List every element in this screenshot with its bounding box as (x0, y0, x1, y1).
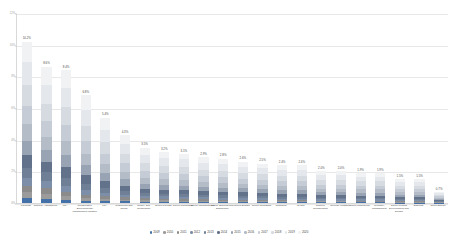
bar-segment[interactable] (41, 104, 51, 121)
bar-segment[interactable] (22, 198, 32, 203)
bar-column[interactable]: 2.6% (238, 162, 248, 203)
legend-item[interactable]: 2012 (190, 231, 200, 234)
bar-column[interactable]: 10.2% (22, 42, 32, 204)
legend-item[interactable]: 2018 (271, 231, 281, 234)
bar-column[interactable]: 3.2% (159, 152, 169, 203)
bar-segment[interactable] (218, 164, 228, 171)
legend-item[interactable]: 2020 (298, 231, 308, 234)
bar-segment[interactable] (22, 178, 32, 186)
bar-segment[interactable] (100, 130, 110, 143)
bar-segment[interactable] (179, 159, 189, 166)
bar-segment[interactable] (179, 202, 189, 203)
bar-segment[interactable] (100, 164, 110, 173)
bar-column[interactable]: 2.4% (277, 165, 287, 203)
bar-segment[interactable] (41, 150, 51, 162)
bar-segment[interactable] (61, 125, 71, 141)
bar-segment[interactable] (159, 158, 169, 166)
legend-item[interactable]: 2013 (204, 231, 214, 234)
legend-item[interactable]: 2010 (163, 231, 173, 234)
bar-segment[interactable] (81, 126, 91, 141)
bar-column[interactable]: 8.6% (41, 67, 51, 203)
bar-segment[interactable] (100, 201, 110, 203)
bar-segment[interactable] (81, 165, 91, 175)
bar-column[interactable]: 2.5% (257, 163, 267, 203)
bar-segment[interactable] (41, 181, 51, 188)
bar-segment[interactable] (140, 148, 150, 155)
bar-segment[interactable] (159, 202, 169, 203)
bar-column[interactable]: 3.1% (179, 154, 189, 203)
bar-segment[interactable] (198, 163, 208, 170)
bar-column[interactable]: 5.4% (100, 118, 110, 204)
bar-segment[interactable] (41, 137, 51, 151)
bar-segment[interactable] (22, 42, 32, 63)
bar-column[interactable]: 2.9% (198, 157, 208, 203)
bar-segment[interactable] (316, 202, 326, 203)
bar-column[interactable]: 2.8% (218, 159, 228, 203)
bar-segment[interactable] (140, 163, 150, 171)
bar-column[interactable]: 6.8% (81, 95, 91, 203)
bar-segment[interactable] (22, 141, 32, 155)
bar-segment[interactable] (22, 106, 32, 125)
bar-segment[interactable] (257, 202, 267, 203)
bar-column[interactable]: 1.9% (356, 173, 366, 203)
bar-segment[interactable] (61, 155, 71, 167)
bar-segment[interactable] (81, 141, 91, 154)
bar-segment[interactable] (61, 178, 71, 186)
bar-column[interactable]: 2.0% (336, 171, 346, 203)
bar-segment[interactable] (120, 154, 130, 163)
bar-column[interactable]: 4.3% (120, 135, 130, 203)
legend-item[interactable]: 2019 (285, 231, 295, 234)
bar-segment[interactable] (100, 118, 110, 130)
bar-segment[interactable] (41, 199, 51, 203)
bar-segment[interactable] (297, 202, 307, 203)
bar-segment[interactable] (22, 124, 32, 141)
bar-segment[interactable] (277, 202, 287, 203)
bar-column[interactable]: 1.9% (375, 173, 385, 203)
bar-segment[interactable] (81, 154, 91, 166)
bar-segment[interactable] (198, 202, 208, 203)
bar-segment[interactable] (61, 200, 71, 203)
bar-segment[interactable] (140, 202, 150, 203)
bar-segment[interactable] (41, 121, 51, 137)
bar-segment[interactable] (81, 201, 91, 203)
bar-segment[interactable] (81, 110, 91, 126)
bar-segment[interactable] (61, 141, 71, 155)
bar-segment[interactable] (61, 70, 71, 88)
legend-item[interactable]: 2017 (258, 231, 268, 234)
bar-column[interactable]: 0.7% (434, 192, 444, 203)
legend-item[interactable]: 2009 (150, 231, 160, 234)
bar-segment[interactable] (61, 107, 71, 125)
bar-segment[interactable] (179, 167, 189, 174)
bar-column[interactable]: 2.4% (297, 165, 307, 203)
bar-segment[interactable] (120, 163, 130, 172)
bar-column[interactable]: 1.5% (414, 179, 424, 203)
bar-segment[interactable] (22, 155, 32, 167)
bar-segment[interactable] (22, 85, 32, 106)
bar-segment[interactable] (140, 171, 150, 178)
bar-segment[interactable] (22, 62, 32, 84)
bar-segment[interactable] (100, 173, 110, 181)
bar-segment[interactable] (22, 168, 32, 178)
bar-segment[interactable] (120, 172, 130, 179)
bar-segment[interactable] (81, 95, 91, 110)
bar-segment[interactable] (375, 202, 385, 203)
bar-segment[interactable] (41, 172, 51, 181)
bar-segment[interactable] (41, 85, 51, 104)
bar-segment[interactable] (100, 154, 110, 165)
legend-item[interactable]: 2014 (217, 231, 227, 234)
bar-segment[interactable] (140, 155, 150, 163)
bar-segment[interactable] (120, 135, 130, 144)
bar-segment[interactable] (238, 202, 248, 203)
bar-segment[interactable] (159, 166, 169, 173)
legend-item[interactable]: 2011 (177, 231, 187, 234)
bar-column[interactable]: 3.5% (140, 148, 150, 203)
bar-segment[interactable] (41, 162, 51, 172)
legend-item[interactable]: 2016 (244, 231, 254, 234)
bar-segment[interactable] (61, 88, 71, 107)
bar-segment[interactable] (81, 175, 91, 183)
bar-segment[interactable] (218, 202, 228, 203)
bar-segment[interactable] (120, 201, 130, 203)
bar-column[interactable]: 1.5% (395, 179, 405, 203)
bar-segment[interactable] (41, 67, 51, 85)
bar-segment[interactable] (356, 202, 366, 203)
